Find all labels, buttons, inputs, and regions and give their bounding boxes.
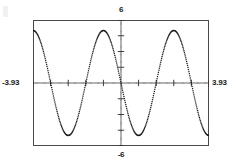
plot-viewport: 6 -6 -3.93 3.93 <box>0 0 236 165</box>
x-max-label: 3.93 <box>212 79 227 87</box>
plot-canvas <box>33 20 209 146</box>
y-min-label: -6 <box>111 151 131 159</box>
axes-group <box>33 20 209 146</box>
x-min-label: -3.93 <box>2 79 19 87</box>
scan-artifact <box>3 6 8 17</box>
y-max-label: 6 <box>113 6 129 14</box>
